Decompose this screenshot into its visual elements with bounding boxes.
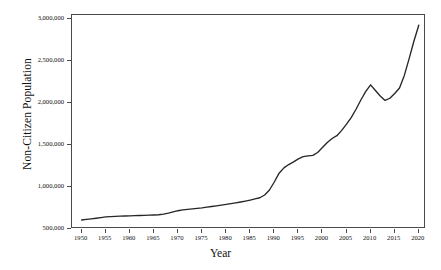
data-line-series [72, 15, 426, 229]
y-tick-label: 1,500,000 [0, 140, 64, 147]
y-tick-label: 3,000,000 [0, 14, 64, 21]
chart-figure: Non-Citizen Population Year 500,0001,000… [0, 0, 441, 270]
x-tick-mark [394, 229, 395, 233]
x-tick-mark [201, 229, 202, 233]
y-tick-label: 500,000 [0, 224, 64, 231]
y-tick-label: 2,500,000 [0, 56, 64, 63]
x-tick-mark [370, 229, 371, 233]
y-tick-label: 2,000,000 [0, 98, 64, 105]
y-tick-mark [67, 228, 71, 229]
x-tick-label: 2020 [403, 234, 433, 241]
x-tick-mark [81, 229, 82, 233]
x-tick-mark [297, 229, 298, 233]
series-polyline [82, 25, 419, 220]
x-tick-mark [129, 229, 130, 233]
x-tick-mark [249, 229, 250, 233]
y-tick-label: 1,000,000 [0, 182, 64, 189]
x-axis-title: Year [0, 247, 441, 259]
x-tick-mark [273, 229, 274, 233]
plot-area [71, 14, 425, 228]
x-tick-mark [321, 229, 322, 233]
x-tick-mark [105, 229, 106, 233]
y-axis-title: Non-Citizen Population [21, 24, 33, 204]
x-tick-mark [418, 229, 419, 233]
x-tick-mark [346, 229, 347, 233]
x-tick-mark [153, 229, 154, 233]
x-tick-mark [177, 229, 178, 233]
x-tick-mark [225, 229, 226, 233]
